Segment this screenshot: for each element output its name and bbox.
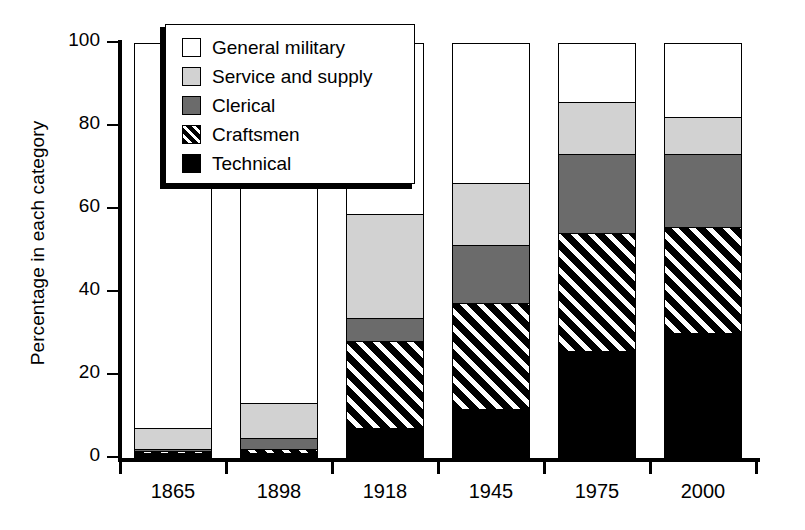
x-axis-tick <box>755 458 758 474</box>
x-axis-tick <box>225 458 228 474</box>
y-axis-tick: 0 <box>107 456 118 458</box>
legend-item-craftsmen[interactable]: Craftsmen <box>182 120 414 149</box>
y-axis-tick-label: 60 <box>79 195 100 217</box>
segment-clerical[interactable] <box>241 438 317 448</box>
segment-service-and-supply[interactable] <box>241 403 317 438</box>
segment-craftsmen[interactable] <box>665 227 741 333</box>
segment-service-and-supply[interactable] <box>665 117 741 154</box>
y-axis-title: Percentage in each category <box>27 33 49 453</box>
segment-technical[interactable] <box>347 428 423 457</box>
legend-item-label: Craftsmen <box>212 124 300 146</box>
segment-service-and-supply[interactable] <box>453 183 529 245</box>
legend-item-label: Technical <box>212 153 291 175</box>
bar-1975[interactable] <box>558 43 636 458</box>
segment-craftsmen[interactable] <box>241 449 317 453</box>
bar-2000[interactable] <box>664 43 742 458</box>
legend-item-label: Clerical <box>212 95 275 117</box>
x-axis-tick-label-1975: 1975 <box>537 480 657 503</box>
legend-item-general-military[interactable]: General military <box>182 33 414 62</box>
segment-technical[interactable] <box>559 351 635 457</box>
white-square-icon <box>182 38 201 57</box>
segment-technical[interactable] <box>135 453 211 457</box>
segment-clerical[interactable] <box>135 449 211 451</box>
legend-box: General militaryService and supplyCleric… <box>165 24 415 184</box>
y-axis-line <box>118 40 122 461</box>
y-axis-tick: 60 <box>107 207 118 209</box>
bar-1945[interactable] <box>452 43 530 458</box>
segment-craftsmen[interactable] <box>559 233 635 351</box>
segment-craftsmen[interactable] <box>347 341 423 428</box>
dark-gray-square-icon <box>182 96 201 115</box>
segment-clerical[interactable] <box>665 154 741 227</box>
y-axis-tick: 80 <box>107 124 118 126</box>
segment-technical[interactable] <box>453 409 529 457</box>
legend-item-clerical[interactable]: Clerical <box>182 91 414 120</box>
y-axis-tick-label: 100 <box>68 29 100 51</box>
segment-clerical[interactable] <box>559 154 635 233</box>
y-axis-tick: 20 <box>107 373 118 375</box>
x-axis-tick-label-1945: 1945 <box>431 480 551 503</box>
x-axis-tick <box>119 458 122 474</box>
segment-clerical[interactable] <box>453 245 529 303</box>
x-axis-tick-label-2000: 2000 <box>643 480 763 503</box>
legend-item-label: Service and supply <box>212 66 373 88</box>
x-axis-tick <box>331 458 334 474</box>
segment-service-and-supply[interactable] <box>347 214 423 318</box>
segment-technical[interactable] <box>241 453 317 457</box>
y-axis-tick-label: 80 <box>79 112 100 134</box>
legend-item-label: General military <box>212 37 345 59</box>
y-axis-tick-label: 0 <box>89 444 100 466</box>
segment-service-and-supply[interactable] <box>559 102 635 154</box>
segment-craftsmen[interactable] <box>135 451 211 453</box>
stacked-bar-chart-figure: Percentage in each category 100806040200… <box>0 0 805 530</box>
legend-item-service-and-supply[interactable]: Service and supply <box>182 62 414 91</box>
black-square-icon <box>182 154 201 173</box>
x-axis-tick-label-1898: 1898 <box>219 480 339 503</box>
y-axis-tick: 40 <box>107 290 118 292</box>
segment-service-and-supply[interactable] <box>135 428 211 449</box>
x-axis-tick-label-1865: 1865 <box>113 480 233 503</box>
segment-clerical[interactable] <box>347 318 423 341</box>
segment-technical[interactable] <box>665 333 741 458</box>
x-axis-tick <box>437 458 440 474</box>
x-axis-tick <box>543 458 546 474</box>
y-axis-tick: 100 <box>107 41 118 43</box>
y-axis-tick-label: 20 <box>79 361 100 383</box>
hatched-square-icon <box>182 125 201 144</box>
x-axis-tick-label-1918: 1918 <box>325 480 445 503</box>
x-axis-tick <box>649 458 652 474</box>
segment-craftsmen[interactable] <box>453 303 529 409</box>
y-axis-tick-label: 40 <box>79 278 100 300</box>
legend-item-technical[interactable]: Technical <box>182 149 414 178</box>
light-gray-square-icon <box>182 67 201 86</box>
